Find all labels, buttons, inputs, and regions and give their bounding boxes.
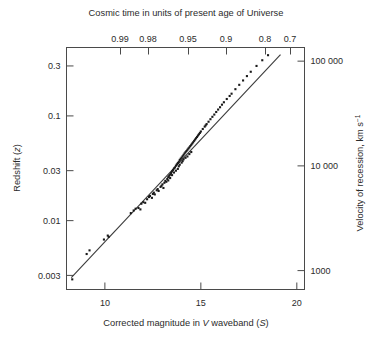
data-point — [229, 95, 231, 97]
data-point — [188, 153, 190, 155]
data-point — [71, 278, 73, 280]
data-point — [242, 79, 244, 81]
left-tick-label-0: 0.003 — [38, 271, 61, 281]
data-point — [157, 188, 159, 190]
data-point — [88, 249, 90, 251]
data-point — [158, 190, 160, 192]
data-point — [217, 109, 219, 111]
right-axis-ticks — [298, 61, 305, 270]
data-point — [184, 157, 186, 159]
right-tick-label-2: 100 000 — [311, 56, 344, 66]
top-axis-title: Cosmic time in units of present age of U… — [89, 8, 284, 18]
data-point — [178, 161, 180, 163]
top-tick-label-0: 0.99 — [111, 34, 129, 44]
right-tick-label-1: 10 000 — [311, 161, 339, 171]
data-point — [169, 177, 171, 179]
bottom-tick-label-0: 10 — [100, 298, 110, 308]
data-point — [130, 212, 132, 214]
right-axis-title: Velocity of recession, km s−1 — [354, 114, 366, 231]
data-point — [211, 116, 213, 118]
data-point — [144, 202, 146, 204]
data-point — [133, 209, 135, 211]
data-point — [246, 75, 248, 77]
data-point — [219, 106, 221, 108]
data-point — [103, 238, 105, 240]
top-tick-label-2: 0.95 — [179, 34, 197, 44]
data-point — [255, 65, 257, 67]
data-point — [209, 118, 211, 120]
left-tick-label-1: 0.01 — [43, 216, 61, 226]
data-point — [215, 111, 217, 113]
left-tick-label-3: 0.1 — [48, 111, 61, 121]
data-point — [173, 171, 175, 173]
bottom-axis-title-c: waveband ( — [209, 318, 261, 328]
right-axis-title-exponent: −1 — [354, 114, 361, 122]
left-axis-title-a: Redshift ( — [12, 151, 22, 192]
hubble-diagram-figure: Cosmic time in units of present age of U… — [0, 0, 379, 340]
data-point — [177, 168, 179, 170]
svg-text:Redshift (z): Redshift (z) — [12, 144, 22, 192]
data-point — [186, 155, 188, 157]
data-point — [108, 236, 110, 238]
top-tick-label-1: 0.98 — [139, 34, 157, 44]
right-axis-tick-labels: 100010 000100 000 — [311, 56, 344, 275]
data-point — [234, 88, 236, 90]
data-point — [223, 101, 225, 103]
plot-canvas: Cosmic time in units of present age of U… — [0, 0, 379, 340]
data-point — [151, 197, 153, 199]
data-point — [213, 114, 215, 116]
bottom-axis-ticks — [105, 283, 297, 290]
data-point — [163, 182, 165, 184]
data-point — [154, 193, 156, 195]
data-point — [171, 174, 173, 176]
data-point — [175, 170, 177, 172]
left-tick-label-2: 0.03 — [43, 166, 61, 176]
bottom-tick-label-2: 20 — [292, 298, 302, 308]
data-point — [221, 104, 223, 106]
data-point — [200, 130, 202, 132]
data-point — [238, 84, 240, 86]
data-point — [162, 187, 164, 189]
svg-text:Velocity of recession, km s−1: Velocity of recession, km s−1 — [354, 114, 366, 231]
data-point — [207, 121, 209, 123]
right-axis-title-a: Velocity of recession, km s — [355, 122, 365, 232]
top-axis-tick-labels: 0.99 0.98 0.95 0.9 0.8 0.7 — [111, 34, 296, 44]
data-point — [167, 179, 169, 181]
left-axis-title: Redshift (z) — [12, 144, 22, 192]
data-point — [182, 160, 184, 162]
data-point — [142, 201, 144, 203]
plot-frame — [67, 48, 305, 290]
data-point — [267, 54, 269, 56]
data-point — [179, 164, 181, 166]
left-axis-ticks — [67, 66, 74, 275]
data-point — [174, 166, 176, 168]
left-tick-label-4: 0.3 — [48, 61, 61, 71]
data-point — [183, 158, 185, 160]
right-tick-label-0: 1000 — [311, 266, 331, 276]
data-point — [190, 151, 192, 153]
bottom-tick-label-1: 15 — [196, 298, 206, 308]
data-point — [231, 93, 233, 95]
data-point — [140, 203, 142, 205]
data-point — [206, 123, 208, 125]
top-tick-label-5: 0.7 — [284, 34, 297, 44]
data-point — [161, 183, 163, 185]
data-point — [202, 128, 204, 130]
data-point — [165, 181, 167, 183]
data-point — [261, 59, 263, 61]
bottom-axis-title-a: Corrected magnitude in — [103, 318, 202, 328]
data-point — [135, 208, 137, 210]
left-axis-tick-labels: 0.0030.010.030.10.3 — [38, 61, 61, 280]
data-point — [146, 198, 148, 200]
top-tick-label-3: 0.9 — [220, 34, 233, 44]
bottom-axis-title: Corrected magnitude in V waveband (S) — [103, 318, 268, 328]
data-point — [137, 207, 139, 209]
data-point — [250, 71, 252, 73]
bottom-axis-title-e: ) — [266, 318, 269, 328]
bottom-axis-tick-labels: 101520 — [100, 298, 302, 308]
data-point — [139, 208, 141, 210]
data-point — [86, 253, 88, 255]
data-point — [149, 195, 151, 197]
top-axis-ticks — [121, 48, 291, 55]
data-point — [226, 98, 228, 100]
